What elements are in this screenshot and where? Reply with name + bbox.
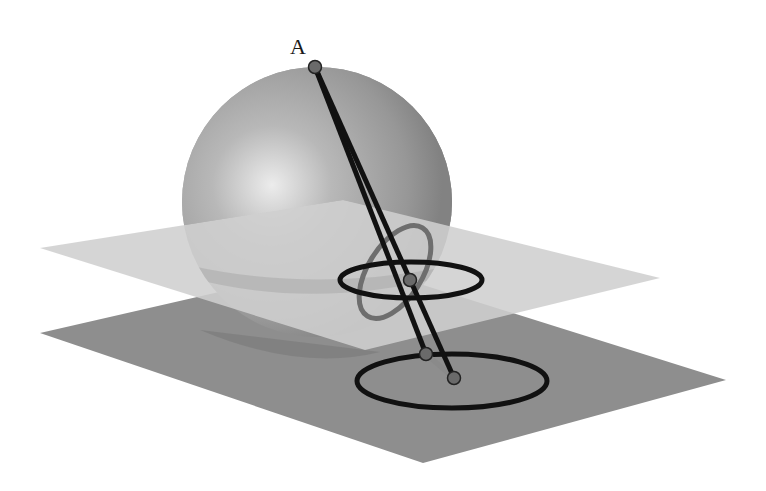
geometry-diagram: A — [0, 0, 766, 491]
point-a[interactable] — [309, 61, 322, 74]
point-lower-left[interactable] — [420, 348, 433, 361]
point-upper-center[interactable] — [404, 274, 417, 287]
label-a: A — [290, 34, 306, 59]
point-lower-center[interactable] — [448, 372, 461, 385]
